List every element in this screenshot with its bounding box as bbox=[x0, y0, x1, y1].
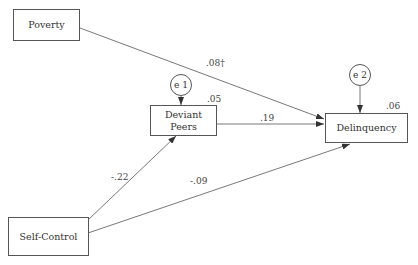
coef-poverty-delinquency: .08† bbox=[206, 58, 225, 68]
node-self-control: Self-Control bbox=[8, 217, 89, 256]
error-e2: e 2 bbox=[349, 64, 371, 86]
node-self-control-label: Self-Control bbox=[20, 231, 78, 243]
node-delinquency-label: Delinquency bbox=[336, 122, 396, 134]
node-poverty-label: Poverty bbox=[28, 19, 64, 31]
coef-selfcontrol-peers: -.22 bbox=[111, 172, 128, 182]
coef-selfcontrol-delinquency: -.09 bbox=[190, 176, 207, 186]
error-e1: e 1 bbox=[170, 74, 192, 96]
node-poverty: Poverty bbox=[13, 9, 80, 41]
node-deviant-peers-label: Deviant Peers bbox=[165, 109, 202, 133]
r2-deviant-peers: .05 bbox=[207, 94, 221, 104]
r2-delinquency: .06 bbox=[386, 101, 400, 111]
arrow-selfcontrol-delinquency bbox=[88, 144, 350, 233]
node-deviant-peers: Deviant Peers bbox=[150, 105, 217, 136]
coef-peers-delinquency: .19 bbox=[260, 113, 274, 123]
node-delinquency: Delinquency bbox=[325, 113, 408, 143]
error-e1-label: e 1 bbox=[174, 80, 188, 90]
error-e2-label: e 2 bbox=[353, 70, 367, 80]
